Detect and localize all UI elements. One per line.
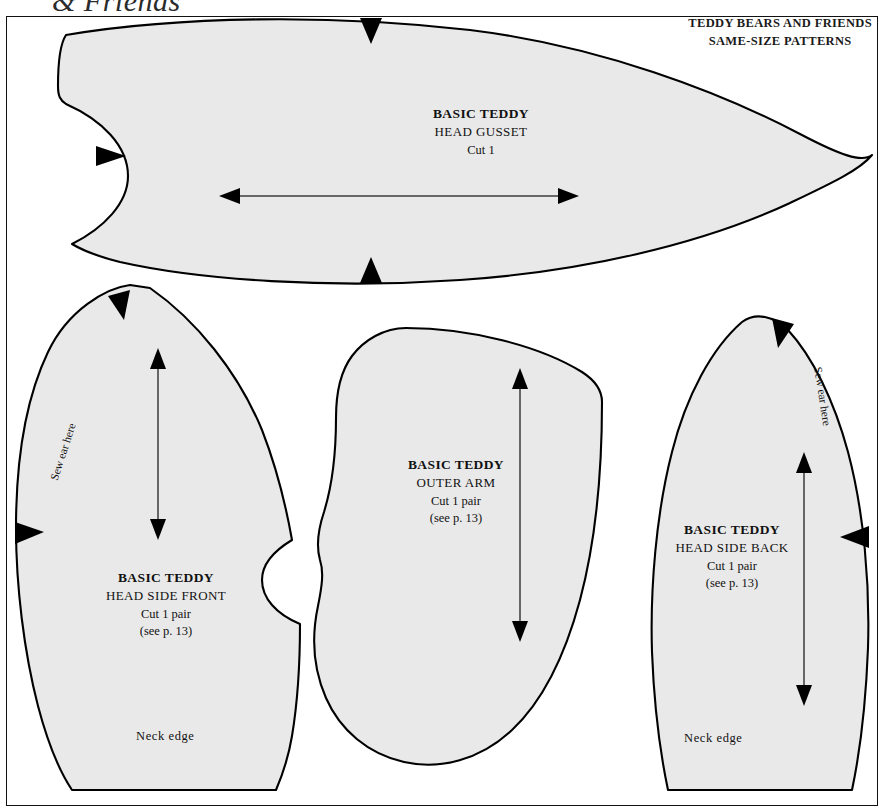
head-side-back-name: HEAD SIDE BACK [675,539,788,557]
outer-arm-label: BASIC TEDDY OUTER ARM Cut 1 pair (see p.… [408,455,504,528]
head-gusset-name: HEAD GUSSET [433,123,529,141]
head-side-front-label: BASIC TEDDY HEAD SIDE FRONT Cut 1 pair (… [106,568,226,641]
outer-arm-name: OUTER ARM [408,474,504,492]
head-gusset-cut: Cut 1 [433,142,529,160]
head-side-front-page-ref: (see p. 13) [106,623,226,641]
head-side-front-cut: Cut 1 pair [106,606,226,624]
header-line-1: TEDDY BEARS AND FRIENDS [688,14,872,32]
head-side-back-label: BASIC TEDDY HEAD SIDE BACK Cut 1 pair (s… [675,520,788,593]
outer-arm-shape [314,328,602,765]
outer-arm-page-ref: (see p. 13) [408,510,504,528]
head-side-back-page-ref: (see p. 13) [675,575,788,593]
head-side-back-neck-edge-label: Neck edge [684,731,743,746]
outer-arm-title: BASIC TEDDY [408,455,504,474]
head-side-back-title: BASIC TEDDY [675,520,788,539]
head-side-front-neck-edge-label: Neck edge [136,729,195,744]
head-gusset-label: BASIC TEDDY HEAD GUSSET Cut 1 [433,104,529,159]
head-side-front-name: HEAD SIDE FRONT [106,587,226,605]
head-gusset-title: BASIC TEDDY [433,104,529,123]
pattern-header-block: TEDDY BEARS AND FRIENDS SAME-SIZE PATTER… [688,14,872,50]
head-side-front-title: BASIC TEDDY [106,568,226,587]
outer-arm-cut: Cut 1 pair [408,493,504,511]
head-side-back-cut: Cut 1 pair [675,558,788,576]
header-line-2: SAME-SIZE PATTERNS [688,32,872,50]
